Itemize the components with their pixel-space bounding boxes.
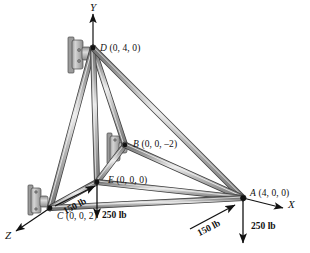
joint-label-D: D (0, 4, 0) <box>100 44 140 54</box>
joint-letter-B: B <box>133 139 139 149</box>
member-D-E <box>92 48 97 182</box>
joint-label-E: E (0, 0, 0) <box>108 176 147 186</box>
joint-dot-E <box>95 180 100 185</box>
axis-label-y: Y <box>90 2 96 13</box>
support-bracket-c <box>28 185 48 215</box>
diagram-canvas: Y X Z D (0, 4, 0) B (0, 0, –2) E (0, 0, … <box>0 0 310 253</box>
joint-dot-A <box>240 195 246 201</box>
x-axis-line <box>243 198 283 208</box>
joint-letter-A: A <box>250 188 256 198</box>
axis-label-z: Z <box>5 230 11 241</box>
joint-coords-D: (0, 4, 0) <box>109 43 140 53</box>
joint-letter-D: D <box>100 43 107 53</box>
truss-drawing <box>0 0 310 253</box>
joint-label-B: B (0, 0, –2) <box>133 140 177 150</box>
joint-dot-C <box>48 206 53 211</box>
joint-coords-B: (0, 0, –2) <box>141 139 177 149</box>
force-label-c-250: 250 lb <box>102 211 127 221</box>
joint-coords-E: (0, 0, 0) <box>116 175 147 185</box>
joint-dot-B <box>123 143 128 148</box>
joint-dot-D <box>91 46 96 51</box>
joint-label-A: A (4, 0, 0) <box>250 189 289 199</box>
axis-label-x: X <box>288 199 295 210</box>
joint-letter-C: C <box>57 211 63 221</box>
joint-label-C: C (0, 0, 2) <box>57 212 97 222</box>
joint-letter-E: E <box>108 175 114 185</box>
joint-coords-A: (4, 0, 0) <box>258 188 289 198</box>
force-label-a-250: 250 lb <box>251 222 276 232</box>
